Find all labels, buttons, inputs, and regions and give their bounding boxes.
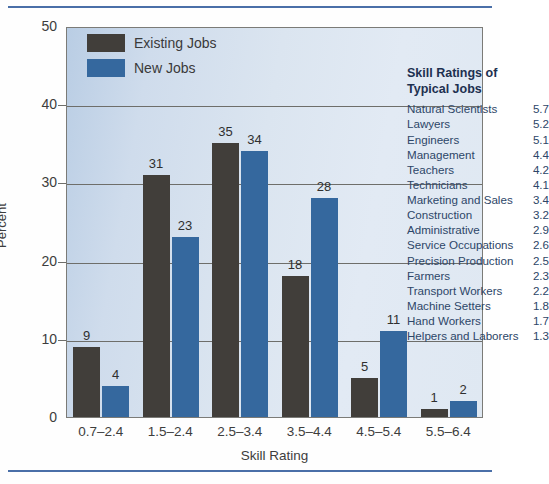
bar-value-label: 35 xyxy=(218,124,232,139)
skill-rating-row: Marketing and Sales3.4 xyxy=(407,192,549,207)
skill-rating-name: Engineers xyxy=(407,132,459,147)
x-tick-label: 5.5–6.4 xyxy=(403,424,493,439)
skill-rating-name: Construction xyxy=(407,207,472,222)
skill-rating-value: 2.5 xyxy=(529,253,549,268)
skill-rating-row: Engineers5.1 xyxy=(407,132,549,147)
skill-rating-value: 5.7 xyxy=(529,101,549,116)
skill-rating-name: Administrative xyxy=(407,222,480,237)
y-tick-mark xyxy=(58,105,66,106)
skill-rating-name: Teachers xyxy=(407,162,454,177)
skill-rating-row: Lawyers5.2 xyxy=(407,116,549,131)
skill-ratings-title-line1: Skill Ratings of xyxy=(407,66,549,82)
bar-group: 1828 xyxy=(276,28,346,417)
skill-rating-row: Service Occupations2.6 xyxy=(407,237,549,252)
skill-rating-name: Marketing and Sales xyxy=(407,192,513,207)
plot-area: Existing Jobs New Jobs 94312335341828511… xyxy=(66,27,483,418)
skill-rating-row: Teachers4.2 xyxy=(407,162,549,177)
skill-rating-value: 2.2 xyxy=(529,283,549,298)
bar-new-jobs: 28 xyxy=(311,198,338,417)
bar-value-label: 31 xyxy=(149,156,163,171)
skill-rating-value: 2.6 xyxy=(529,237,549,252)
skill-rating-value: 1.7 xyxy=(529,313,549,328)
skill-rating-value: 4.2 xyxy=(529,162,549,177)
skill-rating-value: 3.4 xyxy=(529,192,549,207)
skill-rating-name: Natural Scientists xyxy=(407,101,497,116)
skill-rating-row: Technicians4.1 xyxy=(407,177,549,192)
y-axis-label: Percent xyxy=(0,203,9,248)
skill-rating-name: Technicians xyxy=(407,177,468,192)
bar-existing-jobs: 5 xyxy=(351,378,378,417)
skill-rating-value: 1.3 xyxy=(529,328,549,343)
skill-rating-name: Farmers xyxy=(407,268,450,283)
skill-rating-name: Machine Setters xyxy=(407,298,491,313)
y-tick-label: 50 xyxy=(17,18,57,34)
skill-rating-value: 1.8 xyxy=(529,298,549,313)
skill-rating-row: Natural Scientists5.7 xyxy=(407,101,549,116)
y-tick-label: 0 xyxy=(17,409,57,425)
bar-value-label: 28 xyxy=(317,179,331,194)
skill-rating-row: Helpers and Laborers1.3 xyxy=(407,328,549,343)
bar-value-label: 11 xyxy=(387,312,401,327)
bar-existing-jobs: 1 xyxy=(421,409,448,417)
skill-rating-value: 2.9 xyxy=(529,222,549,237)
x-axis-label: Skill Rating xyxy=(66,448,483,463)
bar-value-label: 1 xyxy=(430,390,437,405)
skill-rating-value: 3.2 xyxy=(529,207,549,222)
bottom-rule xyxy=(8,470,492,472)
y-tick-mark xyxy=(58,340,66,341)
skill-rating-row: Hand Workers1.7 xyxy=(407,313,549,328)
bar-group: 511 xyxy=(345,28,415,417)
skill-rating-row: Precision Production2.5 xyxy=(407,253,549,268)
skill-rating-row: Machine Setters1.8 xyxy=(407,298,549,313)
y-tick-label: 20 xyxy=(17,253,57,269)
bar-value-label: 5 xyxy=(361,359,368,374)
skill-ratings-panel: Skill Ratings of Typical Jobs Natural Sc… xyxy=(407,66,549,343)
y-tick-label: 30 xyxy=(17,174,57,190)
skill-rating-name: Hand Workers xyxy=(407,313,481,328)
y-tick-mark xyxy=(58,262,66,263)
skill-rating-value: 4.1 xyxy=(529,177,549,192)
skill-rating-name: Lawyers xyxy=(407,116,450,131)
bar-new-jobs: 34 xyxy=(241,151,268,417)
skill-ratings-title-line2: Typical Jobs xyxy=(407,82,549,98)
skill-ratings-title: Skill Ratings of Typical Jobs xyxy=(407,66,549,97)
y-tick-label: 10 xyxy=(17,331,57,347)
skill-rating-row: Construction3.2 xyxy=(407,207,549,222)
skill-rating-row: Transport Workers2.2 xyxy=(407,283,549,298)
bar-value-label: 18 xyxy=(288,257,302,272)
y-tick-mark xyxy=(58,183,66,184)
skill-rating-row: Management4.4 xyxy=(407,147,549,162)
bar-new-jobs: 23 xyxy=(172,237,199,417)
skill-rating-value: 4.4 xyxy=(529,147,549,162)
bar-value-label: 23 xyxy=(178,218,192,233)
bar-new-jobs: 2 xyxy=(450,401,477,417)
top-rule xyxy=(8,6,492,8)
bar-existing-jobs: 35 xyxy=(212,143,239,417)
skill-rating-name: Management xyxy=(407,147,475,162)
bar-group: 94 xyxy=(67,28,137,417)
skill-rating-row: Farmers2.3 xyxy=(407,268,549,283)
skill-rating-name: Transport Workers xyxy=(407,283,502,298)
y-tick-label: 40 xyxy=(17,96,57,112)
bar-value-label: 2 xyxy=(459,382,466,397)
bar-new-jobs: 11 xyxy=(380,331,407,417)
bar-new-jobs: 4 xyxy=(102,386,129,417)
bar-value-label: 9 xyxy=(83,328,90,343)
skill-rating-row: Administrative2.9 xyxy=(407,222,549,237)
bar-existing-jobs: 18 xyxy=(282,276,309,417)
bar-value-label: 34 xyxy=(247,132,261,147)
skill-rating-name: Helpers and Laborers xyxy=(407,328,519,343)
bar-existing-jobs: 9 xyxy=(73,347,100,417)
skill-rating-value: 5.1 xyxy=(529,132,549,147)
bar-group: 3123 xyxy=(137,28,207,417)
skill-rating-value: 2.3 xyxy=(529,268,549,283)
skill-rating-value: 5.2 xyxy=(529,116,549,131)
bar-value-label: 4 xyxy=(112,367,119,382)
bar-group: 3534 xyxy=(206,28,276,417)
skill-ratings-rows: Natural Scientists5.7Lawyers5.2Engineers… xyxy=(407,101,549,343)
skill-rating-name: Precision Production xyxy=(407,253,513,268)
bar-existing-jobs: 31 xyxy=(143,175,170,417)
skill-rating-name: Service Occupations xyxy=(407,237,513,252)
